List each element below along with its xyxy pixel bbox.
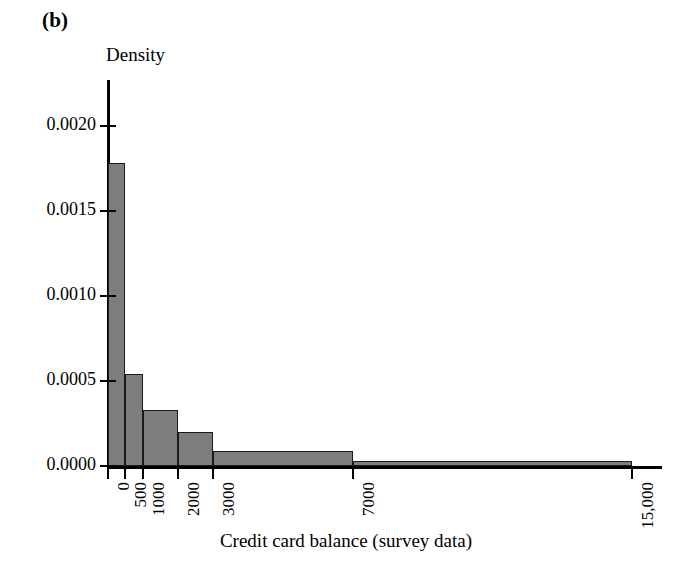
x-axis-tick-label: 2000 — [184, 482, 204, 516]
x-axis-line — [107, 466, 662, 469]
x-axis-tick — [107, 466, 109, 479]
histogram-figure: (b) Density 0.00000.00050.00100.00150.00… — [0, 0, 692, 570]
histogram-bar — [143, 410, 178, 466]
x-axis-tick-label: 3000 — [219, 482, 239, 516]
x-axis-tick-label: 1000 — [149, 482, 169, 516]
x-axis-tick — [142, 466, 144, 479]
histogram-bar — [178, 432, 213, 466]
y-axis-tick-label: 0.0020 — [47, 114, 97, 135]
histogram-bar — [213, 451, 353, 466]
x-axis-tick-label: 7000 — [359, 482, 379, 516]
y-axis-tick-label: 0.0000 — [47, 454, 97, 475]
y-axis-tick-label: 0.0010 — [47, 284, 97, 305]
x-axis-title: Credit card balance (survey data) — [0, 530, 692, 552]
y-axis-tick-label: 0.0015 — [47, 199, 97, 220]
x-axis-tick — [352, 466, 354, 479]
x-axis-tick — [212, 466, 214, 479]
y-axis-tick — [100, 125, 116, 127]
plot-area: 0.00000.00050.00100.00150.0020 050010002… — [0, 0, 692, 570]
y-axis-tick — [100, 380, 116, 382]
y-axis-tick-label: 0.0005 — [47, 369, 97, 390]
histogram-bar — [125, 374, 142, 466]
x-axis-tick — [631, 466, 633, 479]
y-axis-tick — [100, 210, 116, 212]
x-axis-tick — [124, 466, 126, 479]
x-axis-tick-label: 15,000 — [638, 482, 658, 529]
histogram-bar — [353, 461, 632, 466]
x-axis-tick — [177, 466, 179, 479]
histogram-bar — [108, 163, 125, 466]
y-axis-tick — [100, 295, 116, 297]
